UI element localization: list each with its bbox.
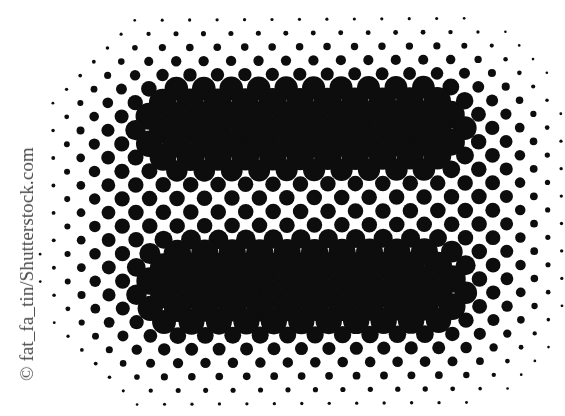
halftone-image — [0, 0, 565, 416]
copyright-credit: © fat_fa_tin/Shutterstock.com — [16, 147, 38, 381]
